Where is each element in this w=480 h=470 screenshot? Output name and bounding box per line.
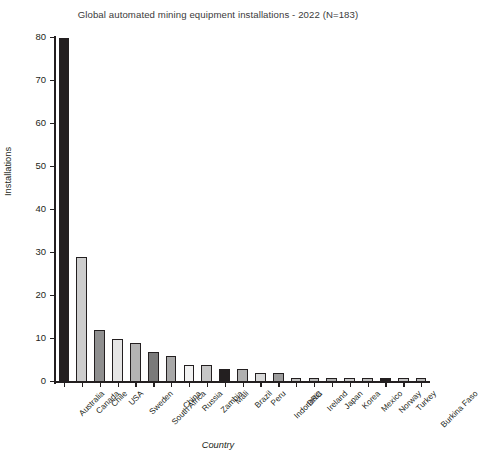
bar[interactable] <box>94 330 105 382</box>
bar-slot <box>344 38 355 382</box>
x-tick <box>82 382 83 387</box>
bar-slot <box>59 38 70 382</box>
x-tick <box>421 382 422 387</box>
x-tick <box>118 382 119 387</box>
bar-slot <box>112 38 123 382</box>
x-tick <box>260 382 261 387</box>
bar-slot <box>362 38 373 382</box>
x-tick <box>314 382 315 387</box>
x-tick <box>207 382 208 387</box>
bar[interactable] <box>148 352 159 382</box>
y-tick: 50 <box>50 166 55 168</box>
x-tick <box>225 382 226 387</box>
bar[interactable] <box>76 257 87 382</box>
y-tick: 60 <box>50 123 55 125</box>
bar-slot <box>166 38 177 382</box>
bar-slot <box>380 38 391 382</box>
bar[interactable] <box>184 365 195 382</box>
y-tick: 20 <box>50 295 55 297</box>
y-tick-label: 80 <box>35 31 46 42</box>
x-tick <box>385 382 386 387</box>
x-category-label: Burkina Faso <box>439 389 479 429</box>
y-tick-label: 10 <box>35 332 46 343</box>
y-tick-label: 20 <box>35 289 46 300</box>
x-axis-label: Country <box>0 440 436 450</box>
x-tick <box>189 382 190 387</box>
y-tick: 10 <box>50 338 55 340</box>
x-category-label: Sweden <box>148 389 175 416</box>
x-tick <box>100 382 101 387</box>
x-category-label: DRC <box>305 389 324 408</box>
y-tick: 40 <box>50 209 55 211</box>
bar-slot <box>309 38 320 382</box>
bar[interactable] <box>255 373 266 382</box>
bar[interactable] <box>219 369 230 382</box>
y-tick: 70 <box>50 80 55 82</box>
x-tick <box>332 382 333 387</box>
bar-slot <box>237 38 248 382</box>
y-tick-label: 30 <box>35 246 46 257</box>
x-tick <box>278 382 279 387</box>
bar-slot <box>76 38 87 382</box>
y-tick: 0 <box>50 381 55 383</box>
bar-slot <box>184 38 195 382</box>
plot-area: 01020304050607080 <box>55 38 430 382</box>
bar-slot <box>94 38 105 382</box>
bar-slot <box>273 38 284 382</box>
x-tick <box>135 382 136 387</box>
bar-slot <box>416 38 427 382</box>
x-category-label: USA <box>126 389 144 407</box>
bar[interactable] <box>112 339 123 382</box>
y-tick: 80 <box>50 37 55 39</box>
y-tick-label: 40 <box>35 203 46 214</box>
x-tick <box>243 382 244 387</box>
bar[interactable] <box>273 373 284 382</box>
bar-slot <box>398 38 409 382</box>
y-tick-label: 70 <box>35 74 46 85</box>
chart-title: Global automated mining equipment instal… <box>0 9 436 20</box>
bar[interactable] <box>237 369 248 382</box>
bar-slot <box>255 38 266 382</box>
y-tick: 30 <box>50 252 55 254</box>
y-axis-label: Installations <box>3 147 13 196</box>
bars-layer <box>55 38 430 382</box>
y-tick-label: 0 <box>41 375 46 386</box>
bar-slot <box>291 38 302 382</box>
bar[interactable] <box>130 343 141 382</box>
x-tick <box>403 382 404 387</box>
x-tick <box>368 382 369 387</box>
x-tick <box>350 382 351 387</box>
bar[interactable] <box>201 365 212 382</box>
x-category-label: Peru <box>269 389 288 408</box>
bar-slot <box>201 38 212 382</box>
x-tick <box>296 382 297 387</box>
bar-slot <box>148 38 159 382</box>
bar[interactable] <box>59 38 70 382</box>
y-tick-label: 60 <box>35 117 46 128</box>
y-tick-label: 50 <box>35 160 46 171</box>
x-category-label: Korea <box>360 389 382 411</box>
x-tick <box>64 382 65 387</box>
x-tick <box>153 382 154 387</box>
bar-slot <box>130 38 141 382</box>
bar-slot <box>219 38 230 382</box>
bar-slot <box>326 38 337 382</box>
bar[interactable] <box>166 356 177 382</box>
x-tick <box>171 382 172 387</box>
